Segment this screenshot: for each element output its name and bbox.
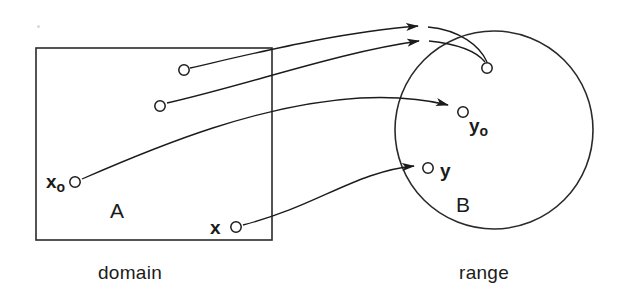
arrow-p2-to-q1-tail — [429, 41, 485, 62]
scan-speck — [37, 25, 40, 28]
domain-point-x — [231, 222, 241, 232]
range-point-y-nought — [458, 107, 468, 117]
label-x: x — [210, 218, 221, 237]
label-x-nought: xo — [46, 172, 65, 191]
label-x-nought-subscript: o — [57, 179, 66, 195]
range-circle — [395, 31, 593, 229]
arrow-p2-to-q1-head — [167, 41, 419, 103]
diagram-canvas — [0, 0, 620, 303]
domain-point-x-nought — [70, 177, 80, 187]
label-y-nought-base: y — [469, 115, 480, 136]
range-point-y — [423, 163, 433, 173]
caption-range: range — [459, 263, 509, 282]
label-y-nought-subscript: o — [480, 123, 489, 139]
arrow-x-to-y — [243, 166, 414, 225]
domain-rectangle — [36, 48, 272, 240]
label-y-nought: yo — [469, 116, 488, 135]
label-y: y — [440, 161, 451, 180]
label-x-nought-base: x — [46, 171, 57, 192]
domain-point-1 — [179, 65, 189, 75]
caption-domain: domain — [98, 263, 162, 282]
domain-point-2 — [155, 101, 165, 111]
label-set-b: B — [456, 194, 470, 215]
range-point-shared — [482, 63, 492, 73]
mapping-diagram-figure: xo A x yo y B domain range — [0, 0, 620, 303]
arrow-xo-to-yo — [82, 97, 448, 179]
label-set-a: A — [110, 200, 124, 221]
